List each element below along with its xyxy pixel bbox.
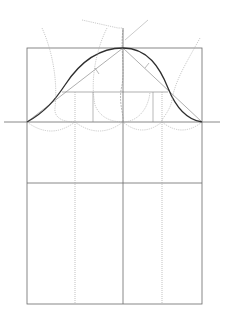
sleeve-pattern-diagram <box>0 0 229 324</box>
cap-top-construction <box>82 20 123 28</box>
underarm-arcs <box>27 122 202 131</box>
back-tick <box>145 63 149 68</box>
back-diagonal <box>123 48 202 122</box>
front-tick <box>95 68 99 74</box>
cap-top-ray <box>125 20 148 40</box>
sleeve-frame <box>27 48 202 304</box>
